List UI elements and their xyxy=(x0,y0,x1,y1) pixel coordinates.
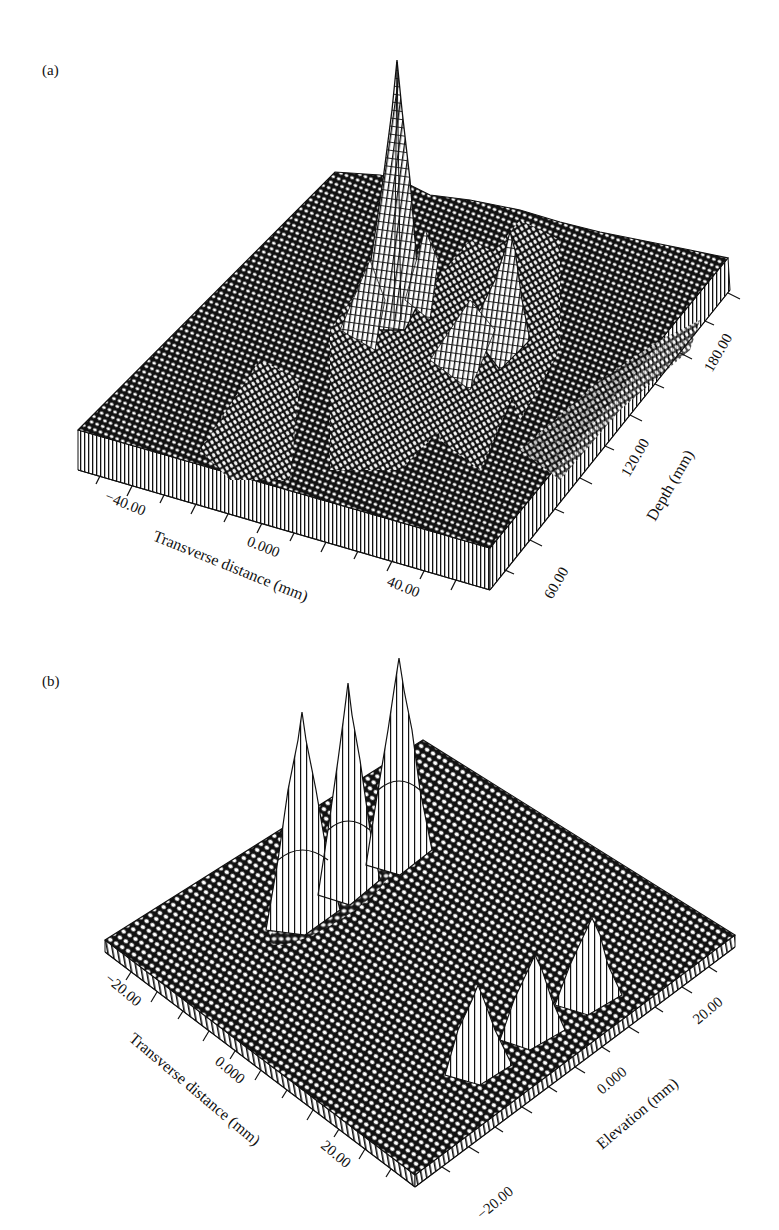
panel-b-x-tick-2: 20.00 xyxy=(318,1137,354,1171)
panel-b-y-tick-2: 20.00 xyxy=(690,993,726,1027)
panel-a-y-tick-2: 180.00 xyxy=(701,331,735,375)
panel-a-y-tick-0: 60.00 xyxy=(541,564,572,601)
panel-a: (a) xyxy=(0,0,779,630)
panel-b-y-tick-0: −20.00 xyxy=(474,1183,517,1222)
panel-a-x-tick-2: 40.00 xyxy=(385,573,422,600)
panel-a-x-axis-title: Transverse distance (mm) xyxy=(151,527,311,606)
panel-a-x-tick-0: −40.00 xyxy=(103,488,148,519)
panel-a-surface-plot: −40.00 0.000 40.00 Transverse distance (… xyxy=(0,0,779,630)
panel-b: (b) xyxy=(0,630,779,1230)
panel-a-x-tick-1: 0.000 xyxy=(245,533,282,560)
panel-b-y-tick-1: 0.000 xyxy=(594,1063,630,1097)
panel-a-y-axis-title: Depth (mm) xyxy=(643,447,698,524)
panel-a-y-tick-1: 120.00 xyxy=(618,436,652,480)
panel-b-surface-plot: −20.00 0.000 20.00 Transverse distance (… xyxy=(0,630,779,1230)
